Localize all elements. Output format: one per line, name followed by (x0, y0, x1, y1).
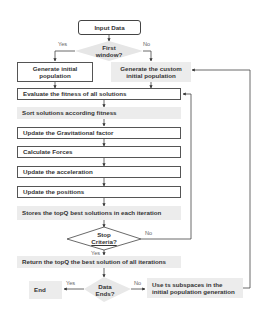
generate-custom-population: Generate the custom initial population (111, 62, 191, 82)
end-label: End (34, 286, 46, 293)
decision-stop-criteria: Stop Criteria? (82, 231, 126, 246)
first-window-no-label: No (143, 41, 150, 47)
step-update-gravitational: Update the Gravitational factor (17, 127, 181, 139)
step-label: Update the Gravitational factor (23, 129, 113, 136)
start-label: Input Data (94, 24, 124, 31)
decision-data-ends: Data Ends? (86, 283, 124, 298)
start-input-data: Input Data (78, 20, 141, 35)
step-label: Calculate Forces (23, 148, 73, 155)
step-return-best: Return the topQ the best solution of all… (17, 256, 181, 268)
generate-initial-line1: Generate initial (33, 65, 78, 72)
step-label: Sort solutions according fitness (22, 109, 117, 116)
first-window-yes-label: Yes (58, 41, 67, 47)
step-label: Evaluate the fitness of all solutions (23, 90, 127, 97)
generate-initial-population: Generate initial population (17, 62, 93, 82)
step-evaluate-fitness: Evaluate the fitness of all solutions (17, 88, 181, 100)
use-subspaces-step: Use ts subspaces in the initial populati… (147, 278, 243, 298)
step-update-acceleration: Update the acceleration (17, 166, 181, 178)
subspaces-line1: Use ts subspaces in the (152, 281, 223, 288)
step-sort-solutions: Sort solutions according fitness (17, 107, 181, 119)
decision-line2: Ends? (86, 290, 124, 297)
step-update-positions: Update the positions (17, 186, 181, 198)
data-ends-yes-label: Yes (66, 280, 75, 286)
generate-custom-line1: Generate the custom (120, 65, 182, 72)
stop-no-label: No (145, 230, 152, 236)
generate-initial-line2: population (39, 72, 71, 79)
decision-line2: window? (84, 51, 134, 58)
step-label: Return the topQ the best solution of all… (22, 258, 166, 265)
step-calculate-forces: Calculate Forces (17, 146, 181, 158)
decision-line1: First (84, 44, 134, 51)
subspaces-line2: initial population generation (152, 288, 235, 295)
decision-line1: Stop (82, 231, 126, 238)
step-label: Update the positions (23, 188, 84, 195)
step-store-topq: Stores the topQ best solutions in each i… (17, 206, 181, 220)
end-terminal: End (29, 281, 62, 299)
generate-custom-line2: initial population (126, 72, 176, 79)
decision-line1: Data (86, 283, 124, 290)
step-label: Stores the topQ best solutions in each i… (22, 209, 161, 216)
decision-first-window: First window? (84, 44, 134, 59)
step-label: Update the acceleration (23, 168, 93, 175)
decision-line2: Criteria? (82, 238, 126, 245)
data-ends-no-label: No (134, 280, 141, 286)
